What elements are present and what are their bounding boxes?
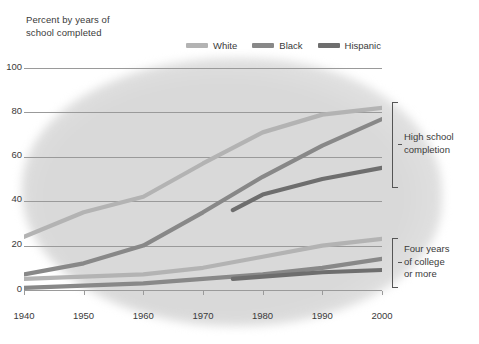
x-tick-label-1970: 1970: [186, 310, 220, 321]
x-tick-label-1980: 1980: [246, 310, 280, 321]
bracket-label-college-line-2: of college: [404, 256, 449, 269]
plot-area: [24, 68, 382, 290]
legend-label-white: White: [213, 40, 237, 51]
x-tick-1980: [263, 291, 264, 295]
bracket-label-high-school-line-1: High school: [404, 131, 454, 144]
x-tick-label-1990: 1990: [305, 310, 339, 321]
y-tick-label-80: 80: [0, 105, 22, 116]
legend-label-black: Black: [279, 40, 302, 51]
axis-title-line-2: school completed: [26, 27, 110, 40]
axis-title-line-1: Percent by years of: [26, 14, 110, 27]
x-tick-label-1950: 1950: [67, 310, 101, 321]
series-lines: [24, 68, 382, 290]
y-tick-label-60: 60: [0, 149, 22, 160]
bracket-label-college: Four years of college or more: [404, 243, 449, 281]
legend-swatch-black-icon: [252, 43, 274, 48]
bracket-label-high-school-line-2: completion: [404, 144, 454, 157]
x-tick-label-1960: 1960: [126, 310, 160, 321]
bracket-label-high-school: High school completion: [404, 131, 454, 156]
legend-label-hispanic: Hispanic: [345, 40, 381, 51]
chart-axis-title: Percent by years of school completed: [26, 14, 110, 39]
legend-item-black[interactable]: Black: [252, 40, 302, 51]
series-line-white-highschool: [24, 108, 382, 237]
y-tick-label-0: 0: [0, 283, 22, 294]
x-tick-label-2000: 2000: [365, 310, 399, 321]
x-tick-1950: [84, 291, 85, 295]
x-tick-1940: [24, 291, 25, 295]
x-tick-1990: [322, 291, 323, 295]
legend-item-white[interactable]: White: [186, 40, 237, 51]
bracket-tick-college: [398, 262, 402, 263]
x-tick-2000: [382, 291, 383, 295]
legend-swatch-hispanic-icon: [318, 43, 340, 48]
education-attainment-chart: Percent by years of school completed Whi…: [0, 0, 479, 344]
legend-item-hispanic[interactable]: Hispanic: [318, 40, 381, 51]
x-tick-1960: [143, 291, 144, 295]
y-tick-label-100: 100: [0, 61, 22, 72]
series-line-hispanic-highschool: [233, 168, 382, 210]
series-line-black-highschool: [24, 119, 382, 274]
x-tick-1970: [203, 291, 204, 295]
bracket-label-college-line-3: or more: [404, 268, 449, 281]
legend-swatch-white-icon: [186, 43, 208, 48]
bracket-label-college-line-1: Four years: [404, 243, 449, 256]
bracket-high-school: [392, 102, 398, 188]
y-tick-label-40: 40: [0, 193, 22, 204]
x-tick-label-1940: 1940: [7, 310, 41, 321]
bracket-college: [392, 238, 398, 288]
chart-legend: White Black Hispanic: [186, 40, 381, 51]
bracket-tick-high-school: [398, 144, 402, 145]
y-tick-label-20: 20: [0, 238, 22, 249]
